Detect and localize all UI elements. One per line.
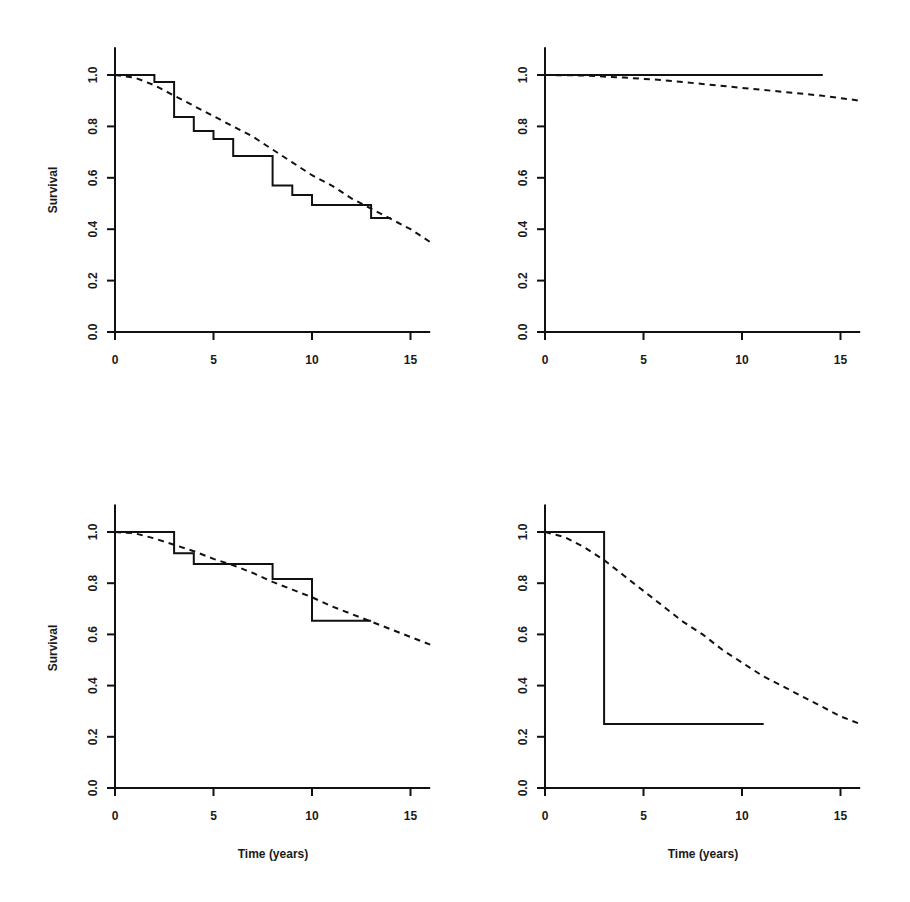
y-tick-label: 0.4 <box>516 221 530 238</box>
x-tick-label: 15 <box>404 809 418 823</box>
axes: 0510150.00.20.40.60.81.0 <box>86 504 430 823</box>
y-tick-label: 0.6 <box>516 169 530 186</box>
y-tick-label: 0.8 <box>86 575 100 592</box>
y-tick-label: 0.2 <box>86 272 100 289</box>
panel-bottom-right: 0510150.00.20.40.60.81.0 <box>516 504 860 823</box>
expected-survival-dashed-curve <box>545 75 860 101</box>
y-tick-label: 0.4 <box>86 221 100 238</box>
y-tick-label: 1.0 <box>86 523 100 540</box>
y-axis-title-top: Survival <box>46 167 60 214</box>
x-tick-label: 10 <box>305 353 319 367</box>
x-tick-label: 10 <box>735 809 749 823</box>
expected-survival-dashed-curve <box>545 532 860 724</box>
y-tick-label: 1.0 <box>86 66 100 83</box>
km-step-curve <box>545 532 764 724</box>
y-tick-label: 0.2 <box>516 728 530 745</box>
y-tick-label: 0.0 <box>86 323 100 340</box>
x-tick-label: 0 <box>542 353 549 367</box>
expected-survival-dashed-curve <box>115 532 430 645</box>
y-tick-label: 0.8 <box>516 575 530 592</box>
y-tick-label: 0.6 <box>86 169 100 186</box>
panel-bottom-left: 0510150.00.20.40.60.81.0 <box>86 504 430 823</box>
x-axis-title-bottom-left: Time (years) <box>238 847 308 861</box>
y-tick-label: 0.6 <box>516 626 530 643</box>
x-tick-label: 5 <box>640 353 647 367</box>
x-tick-label: 0 <box>112 809 119 823</box>
y-tick-label: 1.0 <box>516 523 530 540</box>
x-tick-label: 5 <box>210 353 217 367</box>
y-tick-label: 0.2 <box>516 272 530 289</box>
y-tick-label: 0.0 <box>86 779 100 796</box>
chart-canvas: 0510150.00.20.40.60.81.0 0510150.00.20.4… <box>0 0 910 902</box>
x-tick-label: 10 <box>305 809 319 823</box>
axes: 0510150.00.20.40.60.81.0 <box>516 504 860 823</box>
y-tick-label: 0.0 <box>516 779 530 796</box>
x-tick-label: 5 <box>640 809 647 823</box>
survival-figure: 0510150.00.20.40.60.81.0 0510150.00.20.4… <box>0 0 910 902</box>
y-tick-label: 0.4 <box>516 677 530 694</box>
y-tick-label: 1.0 <box>516 66 530 83</box>
y-tick-label: 0.4 <box>86 677 100 694</box>
x-tick-label: 0 <box>112 353 119 367</box>
y-axis-title-bottom: Survival <box>46 625 60 672</box>
y-tick-label: 0.0 <box>516 323 530 340</box>
panel-top-right: 0510150.00.20.40.60.81.0 <box>516 47 860 367</box>
y-tick-label: 0.8 <box>516 118 530 135</box>
x-axis-title-bottom-right: Time (years) <box>668 847 738 861</box>
x-tick-label: 5 <box>210 809 217 823</box>
x-tick-label: 15 <box>404 353 418 367</box>
x-tick-label: 15 <box>834 353 848 367</box>
panel-top-left: 0510150.00.20.40.60.81.0 <box>86 47 430 367</box>
y-tick-label: 0.2 <box>86 728 100 745</box>
axes: 0510150.00.20.40.60.81.0 <box>86 47 430 367</box>
x-tick-label: 0 <box>542 809 549 823</box>
x-tick-label: 10 <box>735 353 749 367</box>
x-tick-label: 15 <box>834 809 848 823</box>
y-tick-label: 0.6 <box>86 626 100 643</box>
y-tick-label: 0.8 <box>86 118 100 135</box>
